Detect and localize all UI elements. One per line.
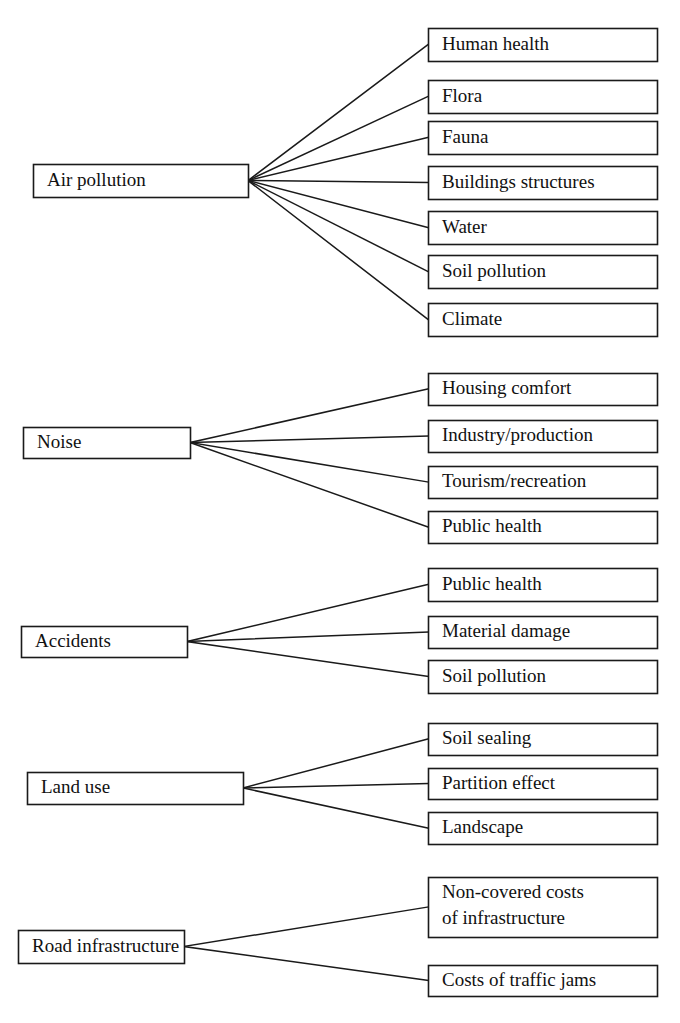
node-land-use-landscape-label: Landscape: [442, 816, 523, 837]
node-noise-tourism-recreation[interactable]: Tourism/recreation: [429, 467, 658, 499]
node-accidents-public-health[interactable]: Public health: [429, 569, 658, 602]
connector-air-pollution-to-human-health: [248, 45, 428, 181]
node-accidents-material-damage[interactable]: Material damage: [429, 617, 658, 649]
connector-air-pollution-to-fauna: [248, 138, 428, 181]
connector-noise-to-public-health: [190, 443, 428, 528]
connector-air-pollution-to-water: [248, 181, 428, 228]
node-accidents-public-health-label: Public health: [442, 573, 542, 594]
connector-noise-to-industry-production: [190, 436, 428, 443]
node-air-pollution-buildings-structures[interactable]: Buildings structures: [429, 167, 658, 200]
node-road-infrastructure-costs-of-traffic-jams-label: Costs of traffic jams: [442, 969, 596, 990]
node-accidents[interactable]: Accidents: [22, 627, 188, 658]
connector-land-use-to-partition-effect: [243, 784, 428, 789]
node-road-infrastructure[interactable]: Road infrastructure: [19, 931, 185, 964]
node-air-pollution-buildings-structures-label: Buildings structures: [442, 171, 595, 192]
node-air-pollution-flora-label: Flora: [442, 85, 483, 106]
node-land-use-partition-effect-label: Partition effect: [442, 772, 556, 793]
node-noise[interactable]: Noise: [24, 428, 191, 459]
node-noise-label: Noise: [37, 431, 81, 452]
connector-noise-to-housing-comfort: [190, 389, 428, 443]
node-air-pollution-climate[interactable]: Climate: [429, 304, 658, 337]
nodes-layer: Air pollutionHuman healthFloraFaunaBuild…: [19, 29, 658, 997]
node-noise-tourism-recreation-label: Tourism/recreation: [442, 470, 587, 491]
diagram-canvas: Air pollutionHuman healthFloraFaunaBuild…: [0, 0, 680, 1023]
connector-road-infrastructure-to-non-covered-costs-of-infrastructure: [184, 907, 428, 947]
node-air-pollution-human-health-label: Human health: [442, 33, 550, 54]
connector-air-pollution-to-buildings-structures: [248, 181, 428, 183]
connector-land-use-to-soil-sealing: [243, 739, 428, 788]
node-accidents-material-damage-label: Material damage: [442, 620, 570, 641]
node-air-pollution-water-label: Water: [442, 216, 488, 237]
node-road-infrastructure-non-covered-costs-of-infrastructure[interactable]: Non-covered costsof infrastructure: [429, 878, 658, 938]
node-noise-housing-comfort[interactable]: Housing comfort: [429, 374, 658, 406]
node-road-infrastructure-non-covered-costs-of-infrastructure-label-line-2: of infrastructure: [442, 907, 565, 928]
node-air-pollution-soil-pollution-label: Soil pollution: [442, 260, 546, 281]
node-land-use-landscape[interactable]: Landscape: [429, 813, 658, 845]
node-accidents-soil-pollution[interactable]: Soil pollution: [429, 661, 658, 694]
node-land-use-soil-sealing[interactable]: Soil sealing: [429, 724, 658, 756]
node-land-use-label: Land use: [41, 776, 110, 797]
node-noise-public-health[interactable]: Public health: [429, 512, 658, 544]
connector-noise-to-tourism-recreation: [190, 443, 428, 483]
connector-road-infrastructure-to-costs-of-traffic-jams: [184, 947, 428, 981]
connector-air-pollution-to-soil-pollution: [248, 181, 428, 272]
node-air-pollution-human-health[interactable]: Human health: [429, 29, 658, 62]
node-air-pollution-fauna[interactable]: Fauna: [429, 122, 658, 155]
node-noise-housing-comfort-label: Housing comfort: [442, 377, 572, 398]
node-land-use-partition-effect[interactable]: Partition effect: [429, 769, 658, 800]
node-road-infrastructure-costs-of-traffic-jams[interactable]: Costs of traffic jams: [429, 966, 658, 997]
node-road-infrastructure-non-covered-costs-of-infrastructure-label-line-1: Non-covered costs: [442, 881, 584, 902]
node-air-pollution-label: Air pollution: [47, 169, 146, 190]
node-noise-industry-production[interactable]: Industry/production: [429, 421, 658, 453]
node-accidents-label: Accidents: [35, 630, 111, 651]
node-air-pollution[interactable]: Air pollution: [34, 165, 249, 198]
node-noise-public-health-label: Public health: [442, 515, 542, 536]
connector-air-pollution-to-climate: [248, 181, 428, 320]
node-air-pollution-soil-pollution[interactable]: Soil pollution: [429, 256, 658, 289]
node-road-infrastructure-label: Road infrastructure: [32, 935, 179, 956]
node-land-use[interactable]: Land use: [28, 773, 244, 805]
tree-diagram: Air pollutionHuman healthFloraFaunaBuild…: [0, 0, 680, 1023]
node-noise-industry-production-label: Industry/production: [442, 424, 593, 445]
connector-land-use-to-landscape: [243, 788, 428, 828]
connector-air-pollution-to-flora: [248, 97, 428, 181]
node-land-use-soil-sealing-label: Soil sealing: [442, 727, 532, 748]
node-air-pollution-flora[interactable]: Flora: [429, 81, 658, 114]
node-air-pollution-climate-label: Climate: [442, 308, 502, 329]
node-accidents-soil-pollution-label: Soil pollution: [442, 665, 546, 686]
node-air-pollution-fauna-label: Fauna: [442, 126, 489, 147]
connector-accidents-to-soil-pollution: [187, 642, 428, 677]
node-air-pollution-water[interactable]: Water: [429, 212, 658, 245]
